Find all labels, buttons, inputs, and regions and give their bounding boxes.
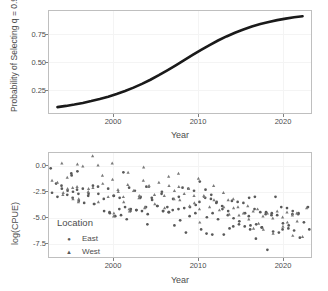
scatter-point-east xyxy=(97,185,100,188)
scatter-point-east xyxy=(51,191,54,194)
scatter-point-east xyxy=(118,208,121,211)
scatter-point-east xyxy=(188,215,191,218)
top-x-tick-label: 2010 xyxy=(190,117,207,126)
scatter-point-west xyxy=(87,190,90,193)
scatter-point-east xyxy=(243,225,246,228)
scatter-point-east xyxy=(124,206,127,209)
scatter-point-east xyxy=(266,249,269,252)
scatter-point-east xyxy=(66,193,69,196)
top-plot-panel xyxy=(48,10,312,114)
scatter-point-west xyxy=(157,181,160,184)
scatter-point-east xyxy=(282,222,285,225)
scatter-point-west xyxy=(227,198,230,201)
top-plot-svg xyxy=(49,11,311,113)
scatter-point-east xyxy=(177,195,180,198)
scatter-point-east xyxy=(179,219,182,222)
scatter-point-east xyxy=(222,233,225,236)
scatter-point-west xyxy=(232,197,235,200)
scatter-point-east xyxy=(298,236,301,239)
scatter-point-east xyxy=(274,195,277,198)
scatter-point-east xyxy=(97,192,100,195)
scatter-point-east xyxy=(242,202,245,205)
scatter-point-east xyxy=(255,237,258,240)
scatter-point-west xyxy=(261,215,264,218)
scatter-point-east xyxy=(291,210,294,213)
scatter-point-west xyxy=(101,182,104,185)
scatter-point-west xyxy=(167,184,170,187)
scatter-point-east xyxy=(168,211,171,214)
scatter-point-west xyxy=(167,175,170,178)
triangle-marker-icon: ▲ xyxy=(63,249,75,255)
scatter-point-west xyxy=(101,174,104,177)
probability-curve xyxy=(57,16,302,107)
scatter-point-west xyxy=(153,202,156,205)
scatter-point-west xyxy=(91,154,94,157)
scatter-point-east xyxy=(227,210,230,213)
scatter-point-east xyxy=(200,228,203,231)
scatter-point-east xyxy=(205,232,208,235)
scatter-point-west xyxy=(76,163,79,166)
legend-label-west: West xyxy=(82,247,100,256)
scatter-point-east xyxy=(162,210,165,213)
scatter-point-east xyxy=(286,207,289,210)
scatter-point-west xyxy=(153,193,156,196)
scatter-point-east xyxy=(151,199,154,202)
scatter-point-east xyxy=(113,194,116,197)
bottom-x-tick-label: 2000 xyxy=(105,261,122,270)
scatter-point-east xyxy=(247,215,250,218)
scatter-point-west xyxy=(236,205,239,208)
scatter-point-west xyxy=(232,206,235,209)
scatter-point-west xyxy=(246,204,249,207)
scatter-point-west xyxy=(252,227,255,230)
scatter-point-east xyxy=(280,206,283,209)
scatter-point-west xyxy=(193,201,196,204)
scatter-point-east xyxy=(308,228,311,231)
scatter-point-east xyxy=(128,186,131,189)
scatter-point-east xyxy=(211,233,214,236)
scatter-point-west xyxy=(71,186,74,189)
scatter-point-east xyxy=(102,198,105,201)
scatter-point-west xyxy=(237,214,240,217)
top-x-axis-label: Year xyxy=(48,130,312,140)
scatter-point-east xyxy=(109,212,112,215)
scatter-point-east xyxy=(70,174,73,177)
scatter-point-east xyxy=(77,192,80,195)
scatter-point-west xyxy=(163,206,166,209)
scatter-point-east xyxy=(253,208,256,211)
scatter-point-east xyxy=(278,231,281,234)
scatter-point-west xyxy=(77,197,80,200)
scatter-point-east xyxy=(120,214,123,217)
scatter-point-east xyxy=(76,188,79,191)
legend-item-east[interactable]: ● East xyxy=(63,232,100,245)
scatter-point-east xyxy=(122,171,125,174)
scatter-point-west xyxy=(116,188,119,191)
scatter-point-east xyxy=(125,218,128,221)
scatter-point-west xyxy=(107,195,110,198)
scatter-point-west xyxy=(173,189,176,192)
scatter-point-west xyxy=(60,162,63,165)
scatter-point-east xyxy=(177,208,180,211)
bottom-plot-panel: Location ● East ▲ West xyxy=(48,152,312,258)
scatter-point-west xyxy=(87,187,90,190)
scatter-point-east xyxy=(171,209,174,212)
scatter-point-west xyxy=(257,222,260,225)
cpue-scatter-plot: log(CPUE) 0.0 -2.5 -5.0 -7.5 xyxy=(0,145,328,291)
scatter-point-west xyxy=(301,235,304,238)
scatter-point-west xyxy=(96,164,99,167)
scatter-point-east xyxy=(166,206,169,209)
legend-item-west[interactable]: ▲ West xyxy=(63,245,100,258)
scatter-point-east xyxy=(103,210,106,213)
scatter-point-east xyxy=(76,170,79,173)
scatter-point-east xyxy=(206,216,209,219)
scatter-point-west xyxy=(91,186,94,189)
scatter-point-west xyxy=(50,179,53,182)
scatter-point-east xyxy=(93,203,96,206)
scatter-point-west xyxy=(192,194,195,197)
scatter-point-west xyxy=(122,200,125,203)
scatter-point-west xyxy=(208,205,211,208)
scatter-point-west xyxy=(126,183,129,186)
scatter-point-east xyxy=(83,202,86,205)
scatter-point-west xyxy=(112,211,115,214)
scatter-point-west xyxy=(97,200,100,203)
scatter-point-west xyxy=(281,225,284,228)
